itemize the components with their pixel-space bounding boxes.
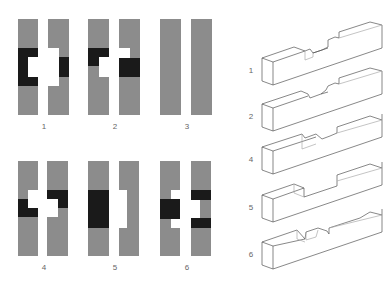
plan-label-6: 6: [181, 263, 193, 272]
iso-label-2: 2: [245, 112, 257, 121]
iso-view-5: [262, 162, 382, 222]
plan-view-5: [88, 161, 139, 256]
plan-label-4: 4: [38, 263, 50, 272]
plan-label-5: 5: [109, 263, 121, 272]
plan-view-1: [18, 19, 69, 115]
iso-view-2: [262, 68, 382, 131]
iso-label-4: 4: [245, 155, 257, 164]
plan-view-3: [160, 19, 212, 115]
plan-view-2: [88, 19, 140, 115]
iso-label-6: 6: [245, 250, 257, 259]
iso-view-1: [262, 22, 382, 85]
iso-view-4: [262, 114, 382, 174]
plan-label-2: 2: [109, 122, 121, 131]
iso-view-6: [262, 209, 382, 269]
plan-view-6: [160, 161, 211, 256]
iso-label-1: 1: [245, 66, 257, 75]
plan-view-4: [18, 161, 68, 256]
plan-label-3: 3: [181, 122, 193, 131]
iso-label-5: 5: [245, 203, 257, 212]
plan-label-1: 1: [38, 122, 50, 131]
joint-diagram: [0, 0, 390, 286]
